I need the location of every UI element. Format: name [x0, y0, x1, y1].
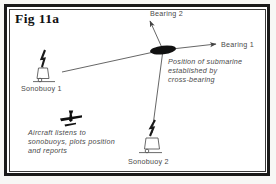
submarine-caption-line-3: cross-bearing [168, 75, 270, 84]
bearing-line-2-arrow [150, 21, 163, 50]
submarine-caption-line-1: Position of submarine [168, 57, 270, 66]
bearing-1-label: Bearing 1 [221, 40, 254, 49]
bearing-2-label: Bearing 2 [150, 9, 183, 18]
aircraft-caption: Aircraft listens to sonobuoys, plots pos… [28, 128, 132, 156]
sonobuoy-2-label: Sonobuoy 2 [128, 157, 169, 166]
aircraft-caption-line-1: Aircraft listens to [28, 128, 132, 137]
aircraft-icon [60, 111, 82, 127]
sonobuoy-1-icon [33, 50, 55, 82]
submarine-marker [150, 44, 177, 56]
aircraft-caption-line-2: sonobuoys, plots position [28, 137, 132, 146]
figure-title: Fig 11a [15, 11, 59, 27]
submarine-caption: Position of submarine established by cro… [168, 57, 270, 85]
sonobuoy-1-label: Sonobuoy 1 [21, 84, 62, 93]
aircraft-caption-line-3: and reports [28, 146, 132, 155]
sonobuoy-2-icon [139, 120, 162, 153]
submarine-caption-line-2: established by [168, 66, 270, 75]
bearing-line-1-segment [62, 50, 163, 72]
figure-panel: Fig 11a Bearing 1 Bearing 2 Sonobuoy 1 S… [0, 0, 276, 184]
